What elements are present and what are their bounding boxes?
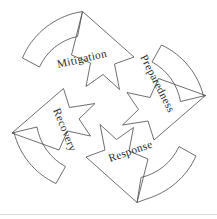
arrow-mitigation[interactable] — [23, 12, 135, 90]
arrow-mitigation-shape — [23, 12, 135, 90]
arrow-recovery-shape — [12, 89, 95, 184]
cycle-diagram-canvas: Mitigation Preparedness Response Recover… — [0, 0, 217, 219]
arrow-response-shape — [86, 125, 196, 203]
arrow-recovery[interactable] — [12, 89, 95, 184]
arrow-response[interactable] — [86, 125, 196, 203]
emergency-management-cycle-diagram: Mitigation Preparedness Response Recover… — [0, 0, 217, 219]
